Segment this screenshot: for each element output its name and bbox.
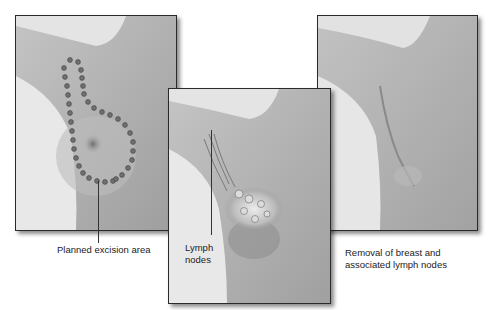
caption-removal-line1: Removal of breast and xyxy=(345,247,447,259)
torso-after-image xyxy=(318,16,477,230)
leader-line-planned xyxy=(98,181,99,243)
caption-lymph-line1: Lymph xyxy=(185,242,213,254)
panel-lymph-nodes xyxy=(168,88,331,304)
caption-removal-line2: associated lymph nodes xyxy=(345,259,447,271)
caption-lymph-nodes: Lymph nodes xyxy=(185,242,213,266)
caption-lymph-line2: nodes xyxy=(185,254,213,266)
caption-removal: Removal of breast and associated lymph n… xyxy=(345,247,447,271)
panel-planned-excision xyxy=(15,15,177,231)
caption-planned-excision: Planned excision area xyxy=(57,244,150,256)
leader-line-lymph xyxy=(211,130,212,235)
breast-tissue xyxy=(224,187,284,231)
torso-lymph-image xyxy=(169,89,330,303)
torso-planned-image xyxy=(16,16,176,230)
panel-after-removal xyxy=(317,15,478,231)
